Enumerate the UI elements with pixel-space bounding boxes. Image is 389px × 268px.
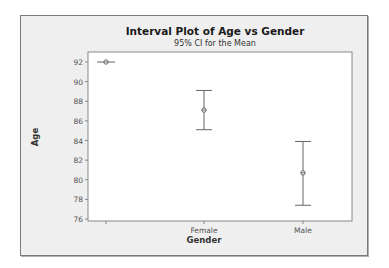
interval-plot: Interval Plot of Age vs Gender95% CI for…	[0, 0, 389, 268]
y-tick-label: 86	[73, 117, 83, 126]
y-tick-label: 76	[73, 215, 83, 224]
x-tick-label: Female	[190, 226, 218, 235]
y-tick-label: 92	[73, 58, 83, 67]
plot-area	[88, 52, 352, 221]
x-tick-label: Male	[294, 226, 312, 235]
chart-subtitle: 95% CI for the Mean	[174, 39, 256, 48]
y-axis-label: Age	[30, 128, 40, 147]
y-tick-label: 80	[73, 176, 83, 185]
y-tick-label: 84	[73, 137, 83, 146]
y-tick-label: 88	[73, 97, 83, 106]
chart-title: Interval Plot of Age vs Gender	[126, 25, 306, 37]
y-tick-label: 90	[73, 78, 83, 87]
x-axis-label: Gender	[187, 235, 223, 245]
y-tick-label: 82	[73, 156, 83, 165]
y-tick-label: 78	[73, 195, 83, 204]
